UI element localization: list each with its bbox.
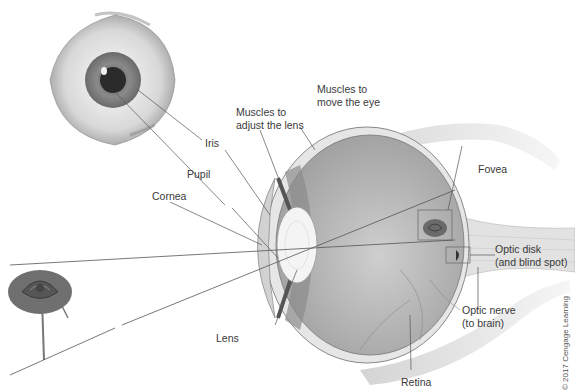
rose-illustration	[8, 270, 72, 360]
label-line: adjust the lens	[236, 119, 304, 132]
label-line: (and blind spot)	[495, 256, 567, 269]
label-line: Optic nerve	[462, 304, 516, 317]
label-fovea: Fovea	[478, 163, 507, 176]
label-line: Optic disk	[495, 243, 567, 256]
label-optic-disk: Optic disk (and blind spot)	[495, 243, 567, 269]
copyright-notice: © 2017 Cengage Learning	[561, 296, 570, 390]
label-line: Muscles to	[236, 106, 304, 119]
label-pupil: Pupil	[187, 168, 210, 181]
label-lens: Lens	[216, 332, 239, 345]
label-muscles-move-eye: Muscles to move the eye	[317, 83, 380, 109]
front-eye-illustration	[50, 13, 175, 145]
label-line: Muscles to	[317, 83, 380, 96]
label-line: move the eye	[317, 96, 380, 109]
eye-diagram: Muscles to move the eye Muscles to adjus…	[0, 0, 575, 392]
label-optic-nerve: Optic nerve (to brain)	[462, 304, 516, 330]
label-line: (to brain)	[462, 317, 516, 330]
label-iris: Iris	[205, 137, 219, 150]
label-muscles-adjust-lens: Muscles to adjust the lens	[236, 106, 304, 132]
label-retina: Retina	[401, 376, 431, 389]
label-cornea: Cornea	[152, 190, 186, 203]
